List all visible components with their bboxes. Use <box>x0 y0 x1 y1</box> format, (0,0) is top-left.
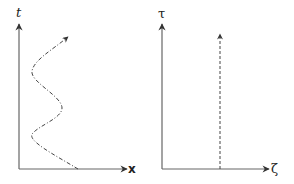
right-x-axis-label: ζ <box>271 162 278 175</box>
left-x-axis-label: x <box>128 163 136 175</box>
left-axes <box>19 24 127 169</box>
left-y-axis-label: t <box>16 6 21 19</box>
right-y-axis-label: τ <box>158 7 165 20</box>
spacetime-diagrams: t x τ ζ <box>0 0 294 184</box>
diagram-canvas <box>0 0 294 184</box>
right-axes <box>162 24 269 169</box>
left-worldline <box>32 37 78 169</box>
